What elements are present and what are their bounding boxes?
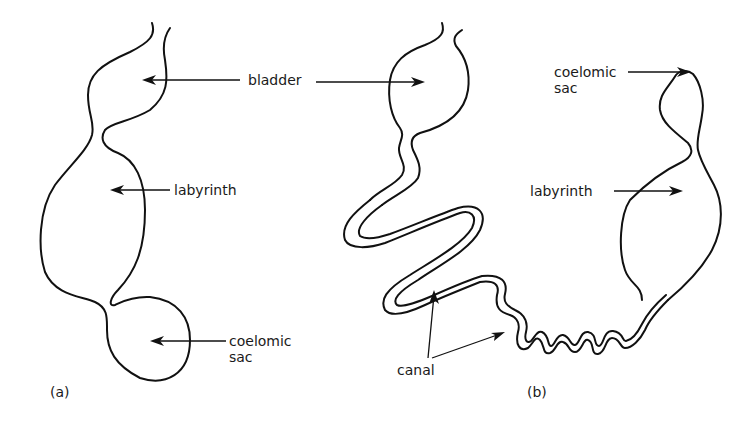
label-b-labyrinth: labyrinth bbox=[530, 183, 593, 199]
label-b-canal: canal bbox=[397, 362, 435, 378]
panel-b-tag: (b) bbox=[527, 384, 547, 400]
label-b-coelomic-sac-line2: sac bbox=[554, 80, 578, 96]
diagram-drawing bbox=[0, 0, 749, 426]
panel-b-bladder bbox=[370, 23, 469, 205]
label-a-bladder: bladder bbox=[248, 72, 302, 88]
excretory-organ-diagram: bladder labyrinth coelomic sac (a) coelo… bbox=[0, 0, 749, 426]
label-a-coelomic-sac-line1: coelomic bbox=[229, 333, 292, 349]
panel-a-tag: (a) bbox=[50, 384, 70, 400]
label-a-labyrinth: labyrinth bbox=[174, 182, 237, 198]
label-a-coelomic-sac-line2: sac bbox=[229, 349, 253, 365]
panel-b-labyrinth bbox=[621, 71, 721, 300]
label-b-coelomic-sac-line1: coelomic bbox=[554, 64, 617, 80]
panel-b-canal bbox=[344, 200, 668, 354]
panel-a-organ-outline bbox=[41, 23, 190, 380]
